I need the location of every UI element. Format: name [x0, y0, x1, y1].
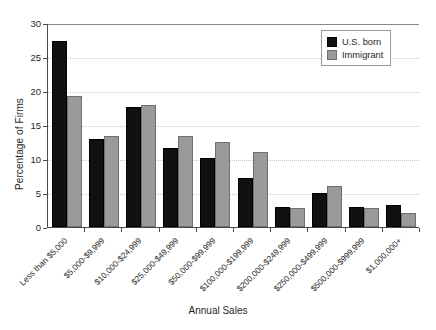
- y-tick-mark: [43, 24, 47, 25]
- x-tick-mark: [307, 228, 308, 232]
- x-tick-mark: [196, 228, 197, 232]
- bar: [327, 186, 342, 227]
- y-tick-mark: [43, 194, 47, 195]
- bar: [67, 96, 82, 227]
- bar: [275, 207, 290, 227]
- x-tick-mark: [419, 228, 420, 232]
- x-tick-mark: [382, 228, 383, 232]
- bar-group: [160, 24, 197, 227]
- bar-group: [234, 24, 271, 227]
- x-tick-mark: [159, 228, 160, 232]
- legend-swatch-icon-us-born: [327, 37, 337, 47]
- bar: [238, 178, 253, 227]
- bar: [312, 193, 327, 227]
- y-tick-label: 20: [15, 87, 41, 97]
- y-tick-mark: [43, 58, 47, 59]
- y-tick-mark: [43, 228, 47, 229]
- x-axis-title: Annual Sales: [0, 305, 436, 316]
- y-tick-label: 0: [15, 223, 41, 233]
- y-axis-title: Percentage of Firms: [14, 98, 25, 190]
- y-tick-label: 30: [15, 19, 41, 29]
- bar: [126, 107, 141, 227]
- legend-item-us-born: U.S. born: [327, 35, 383, 48]
- bar: [364, 208, 379, 227]
- y-tick-label: 15: [15, 121, 41, 131]
- x-tick-mark: [345, 228, 346, 232]
- x-tick-mark: [84, 228, 85, 232]
- bar-group: [122, 24, 159, 227]
- y-tick-label: 25: [15, 53, 41, 63]
- legend-item-immigrant: Immigrant: [327, 48, 383, 61]
- x-tick-mark: [233, 228, 234, 232]
- bar: [178, 136, 193, 227]
- bar: [89, 139, 104, 227]
- x-tick-mark: [270, 228, 271, 232]
- legend-swatch-icon-immigrant: [327, 50, 337, 60]
- bar: [52, 41, 67, 227]
- y-tick-label: 10: [15, 155, 41, 165]
- bar-group: [271, 24, 308, 227]
- bar: [215, 142, 230, 227]
- legend-label-us-born: U.S. born: [342, 37, 381, 47]
- bar: [253, 152, 268, 227]
- bar: [104, 136, 119, 227]
- y-tick-mark: [43, 126, 47, 127]
- y-tick-mark: [43, 92, 47, 93]
- bar-group: [197, 24, 234, 227]
- bar: [401, 213, 416, 227]
- bar-group: [48, 24, 85, 227]
- bar: [349, 207, 364, 227]
- bar: [386, 205, 401, 227]
- x-tick-mark: [121, 228, 122, 232]
- bar: [163, 148, 178, 227]
- y-tick-mark: [43, 160, 47, 161]
- bar: [200, 158, 215, 227]
- y-tick-label: 5: [15, 189, 41, 199]
- bar-chart: Percentage of Firms 051015202530 Less th…: [0, 0, 436, 330]
- bar-group: [85, 24, 122, 227]
- bar: [290, 208, 305, 227]
- chart-legend: U.S. born Immigrant: [321, 30, 391, 66]
- legend-label-immigrant: Immigrant: [342, 50, 383, 60]
- bar: [141, 105, 156, 227]
